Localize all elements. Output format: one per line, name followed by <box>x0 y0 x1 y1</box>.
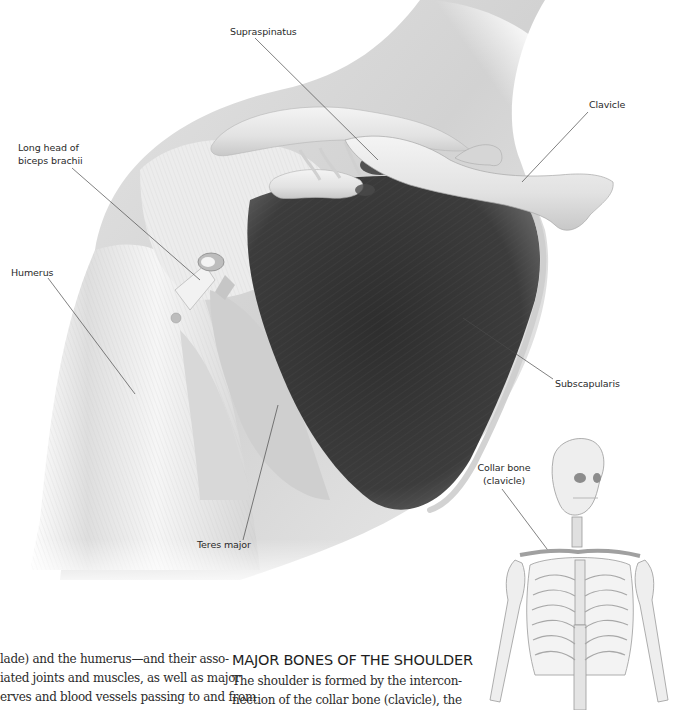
text-line: erves and blood vessels passing to and f… <box>0 688 256 707</box>
label-teres-major: Teres major <box>197 538 251 551</box>
section-heading: MAJOR BONES OF THE SHOULDER <box>232 652 473 668</box>
text-line: nection of the collar bone (clavicle), t… <box>232 691 462 710</box>
text-line: The shoulder is formed by the intercon- <box>232 672 462 691</box>
label-line: Long head of <box>18 141 83 154</box>
label-long-head-biceps: Long head of biceps brachii <box>18 141 83 167</box>
label-supraspinatus: Supraspinatus <box>230 25 297 38</box>
label-collar-bone: Collar bone (clavicle) <box>474 461 534 487</box>
label-clavicle: Clavicle <box>589 98 625 111</box>
right-column-text: The shoulder is formed by the intercon- … <box>232 672 462 710</box>
left-column-text: lade) and the humerus—and their asso- ia… <box>0 650 256 707</box>
book-page: Supraspinatus Clavicle Long head of bice… <box>0 0 677 710</box>
shoulder-illustration <box>0 0 677 710</box>
label-line: (clavicle) <box>474 474 534 487</box>
label-line: biceps brachii <box>18 154 83 167</box>
text-line: lade) and the humerus—and their asso- <box>0 650 256 669</box>
label-line: Collar bone <box>474 461 534 474</box>
text-line: iated joints and muscles, as well as maj… <box>0 669 256 688</box>
leader-line-collar-bone <box>502 489 550 553</box>
label-subscapularis: Subscapularis <box>555 377 620 390</box>
label-humerus: Humerus <box>11 266 53 279</box>
